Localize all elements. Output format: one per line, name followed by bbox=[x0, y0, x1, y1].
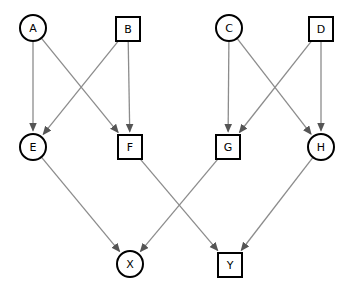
node-b[interactable]: B bbox=[116, 17, 140, 41]
node-d-label: D bbox=[317, 23, 325, 36]
node-e[interactable]: E bbox=[20, 134, 46, 160]
node-a-label: A bbox=[29, 22, 37, 35]
node-x-label: X bbox=[126, 258, 134, 271]
node-c[interactable]: C bbox=[216, 15, 242, 41]
nodes-layer: ABCDEFGHXY bbox=[20, 15, 334, 277]
node-a[interactable]: A bbox=[20, 15, 46, 41]
node-d[interactable]: D bbox=[309, 17, 333, 41]
edge-c-to-g bbox=[228, 42, 229, 132]
node-g-label: G bbox=[224, 141, 233, 154]
edge-c-to-h bbox=[237, 39, 311, 134]
node-b-label: B bbox=[124, 23, 132, 36]
graph-svg: ABCDEFGHXY bbox=[0, 0, 353, 289]
node-f[interactable]: F bbox=[118, 135, 142, 159]
diagram-canvas: ABCDEFGHXY bbox=[0, 0, 353, 289]
node-c-label: C bbox=[225, 22, 233, 35]
node-x[interactable]: X bbox=[117, 251, 143, 277]
edge-h-to-y bbox=[241, 158, 312, 251]
node-f-label: F bbox=[127, 141, 133, 154]
node-g[interactable]: G bbox=[216, 135, 240, 159]
node-y-label: Y bbox=[226, 259, 234, 272]
node-h-label: H bbox=[317, 141, 325, 154]
node-h[interactable]: H bbox=[308, 134, 334, 160]
edge-e-to-x bbox=[42, 157, 120, 251]
node-e-label: E bbox=[30, 141, 37, 154]
edge-a-to-f bbox=[42, 38, 118, 132]
node-y[interactable]: Y bbox=[218, 253, 242, 277]
edges-layer bbox=[33, 38, 321, 251]
edge-b-to-f bbox=[128, 42, 130, 132]
